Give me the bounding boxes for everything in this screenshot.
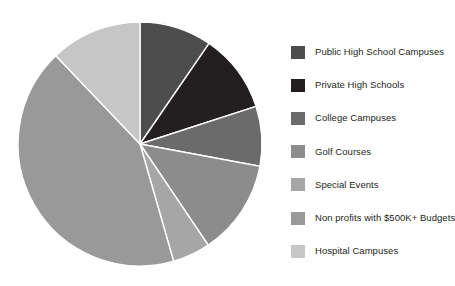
legend-item[interactable]: College Campuses	[291, 109, 396, 127]
legend-swatch-icon	[291, 79, 305, 92]
legend-swatch-icon	[291, 46, 305, 59]
legend-item[interactable]: Non profits with $500K+ Budgets	[291, 209, 455, 227]
legend-item[interactable]: Private High Schools	[291, 76, 404, 94]
legend-swatch-icon	[291, 245, 305, 258]
legend-swatch-icon	[291, 178, 305, 191]
legend-item-label: Hospital Campuses	[315, 245, 398, 257]
legend-item[interactable]: Public High School Campuses	[291, 43, 444, 61]
pie-chart-plot-area	[0, 0, 285, 286]
legend-item-label: Golf Courses	[315, 146, 371, 158]
chart-legend: Public High School CampusesPrivate High …	[291, 30, 453, 270]
legend-swatch-icon	[291, 212, 305, 225]
legend-item-label: Private High Schools	[315, 79, 404, 91]
legend-item[interactable]: Hospital Campuses	[291, 242, 398, 260]
legend-item-label: Non profits with $500K+ Budgets	[315, 212, 455, 224]
legend-item[interactable]: Golf Courses	[291, 143, 371, 161]
legend-swatch-icon	[291, 145, 305, 158]
legend-item-label: Special Events	[315, 179, 379, 191]
pie-chart-svg	[0, 0, 285, 286]
legend-item-label: Public High School Campuses	[315, 46, 444, 58]
legend-item[interactable]: Special Events	[291, 176, 379, 194]
legend-swatch-icon	[291, 112, 305, 125]
legend-item-label: College Campuses	[315, 112, 396, 124]
